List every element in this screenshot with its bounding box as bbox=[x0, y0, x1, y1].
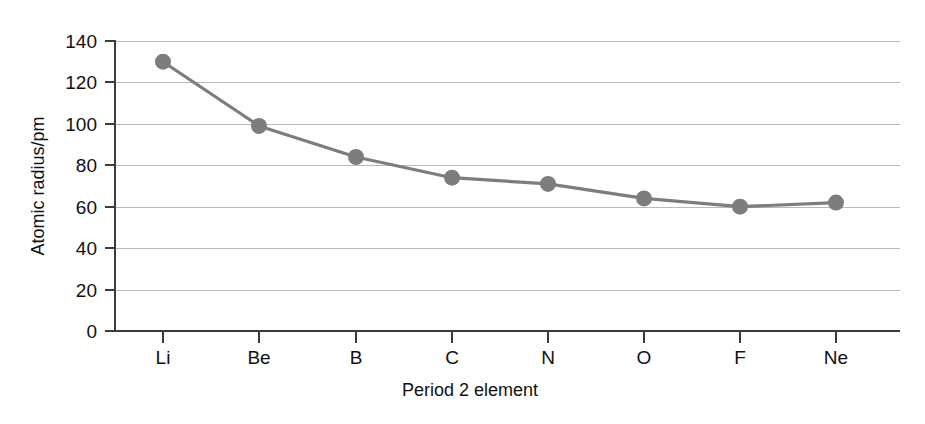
data-point-b bbox=[348, 149, 364, 165]
y-tick-label-20: 20 bbox=[76, 280, 97, 301]
data-point-n bbox=[540, 176, 556, 192]
x-tick-label-li: Li bbox=[156, 347, 171, 368]
y-tick-label-100: 100 bbox=[65, 114, 97, 135]
series-markers bbox=[155, 54, 844, 215]
data-point-o bbox=[636, 190, 652, 206]
y-tick-label-40: 40 bbox=[76, 238, 97, 259]
y-tick-label-0: 0 bbox=[86, 321, 97, 342]
series-line-atomic-radius bbox=[163, 62, 836, 207]
x-tick-marks bbox=[163, 331, 836, 343]
x-tick-label-f: F bbox=[734, 347, 746, 368]
gridlines bbox=[115, 41, 900, 290]
chart-container: 140 120 100 80 60 40 20 0 Li Be B C N bbox=[0, 0, 925, 424]
y-tick-marks bbox=[105, 41, 115, 331]
x-tick-label-be: Be bbox=[247, 347, 270, 368]
data-point-li bbox=[155, 54, 171, 70]
y-tick-label-140: 140 bbox=[65, 31, 97, 52]
x-tick-label-n: N bbox=[541, 347, 555, 368]
data-point-be bbox=[251, 118, 267, 134]
x-tick-labels: Li Be B C N O F Ne bbox=[156, 347, 849, 368]
x-tick-label-c: C bbox=[445, 347, 459, 368]
y-tick-label-120: 120 bbox=[65, 72, 97, 93]
axis-lines bbox=[114, 40, 900, 332]
y-tick-label-80: 80 bbox=[76, 155, 97, 176]
data-point-c bbox=[444, 170, 460, 186]
y-tick-labels: 140 120 100 80 60 40 20 0 bbox=[65, 31, 97, 342]
y-tick-label-60: 60 bbox=[76, 197, 97, 218]
data-point-ne bbox=[828, 195, 844, 211]
y-axis-title: Atomic radius/pm bbox=[28, 116, 48, 255]
x-axis-title: Period 2 element bbox=[402, 380, 538, 400]
data-point-f bbox=[732, 199, 748, 215]
x-tick-label-o: O bbox=[637, 347, 652, 368]
data-series-atomic-radius bbox=[155, 54, 844, 215]
x-tick-label-ne: Ne bbox=[824, 347, 848, 368]
x-tick-label-b: B bbox=[350, 347, 363, 368]
line-chart: 140 120 100 80 60 40 20 0 Li Be B C N bbox=[0, 0, 925, 424]
